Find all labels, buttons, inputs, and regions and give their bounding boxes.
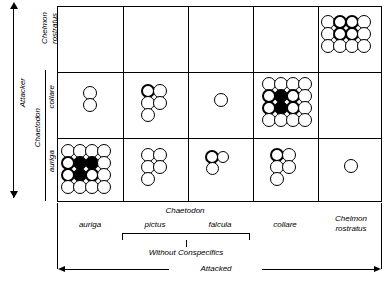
x-axis-bar-right [262, 269, 375, 270]
y-axis-label: Attacker [18, 78, 27, 107]
row-genus-bracket [45, 70, 46, 201]
circle-open [298, 113, 312, 127]
cell-auriga-collare[interactable] [253, 138, 318, 203]
circle-open [141, 172, 155, 186]
col-label-chelmon-rostratus: Chelmonrostratus [320, 214, 382, 234]
cell-auriga-auriga[interactable] [58, 138, 123, 203]
x-axis-bar-left [63, 269, 169, 270]
cell-collare-collare[interactable] [253, 72, 318, 138]
cell-collare-falcula[interactable] [188, 72, 253, 138]
row-label-collare: collare [47, 85, 56, 109]
x-axis-right-tick [381, 203, 382, 269]
cell-chelmon-falcula[interactable] [188, 7, 253, 72]
cell-collare-auriga[interactable] [58, 72, 123, 138]
matrix-grid [57, 6, 382, 202]
col-label-species: rostratus [335, 224, 366, 233]
col-label-pictus: pictus [127, 220, 183, 229]
cell-auriga-chelmon[interactable] [318, 138, 383, 203]
col-label-auriga: auriga [62, 220, 118, 229]
x-axis-left-tick [57, 203, 58, 269]
circle-open [282, 160, 296, 174]
circle-open [270, 172, 284, 186]
col-label-genus: Chelmon [335, 214, 367, 223]
circle-open [141, 108, 155, 122]
col-label-collare: collare [257, 220, 313, 229]
cell-auriga-pictus[interactable] [123, 138, 188, 203]
circle-open [83, 98, 97, 112]
x-axis-arrow-left [58, 266, 65, 272]
without-conspecifics-bracket-stem [186, 240, 187, 247]
row-label-auriga: auriga [47, 150, 56, 172]
attack-matrix-figure: Attacker Chaetodon Chelmonrostratus coll… [0, 0, 387, 283]
y-axis-arrow-up [10, 2, 18, 9]
cell-collare-chelmon[interactable] [318, 72, 383, 138]
circle-open [217, 151, 229, 163]
without-conspecifics-label: Without Conspecifics [122, 248, 250, 257]
without-conspecifics-bracket [122, 233, 250, 240]
cell-chelmon-pictus[interactable] [123, 7, 188, 72]
circle-open [97, 180, 111, 194]
cell-chelmon-collare[interactable] [253, 7, 318, 72]
y-axis-line [13, 8, 14, 198]
x-axis-label: Attacked [169, 264, 263, 273]
circle-open [344, 159, 358, 173]
circle-open [206, 162, 219, 175]
cell-chelmon-chelmon[interactable] [318, 7, 383, 72]
circle-open [153, 96, 167, 110]
col-genus-label-chaetodon: Chaetodon [140, 206, 230, 215]
row-label-genus: Chelmon [40, 12, 49, 44]
circle-open [214, 93, 228, 107]
y-axis-arrow-down [10, 191, 18, 198]
circle-open [357, 39, 371, 53]
row-genus-label-chaetodon: Chaetodon [33, 108, 42, 147]
cell-auriga-falcula[interactable] [188, 138, 253, 203]
x-axis-arrow-right [374, 266, 381, 272]
cell-collare-pictus[interactable] [123, 72, 188, 138]
circle-open [153, 160, 167, 174]
col-label-falcula: falcula [192, 220, 248, 229]
cell-chelmon-auriga[interactable] [58, 7, 123, 72]
